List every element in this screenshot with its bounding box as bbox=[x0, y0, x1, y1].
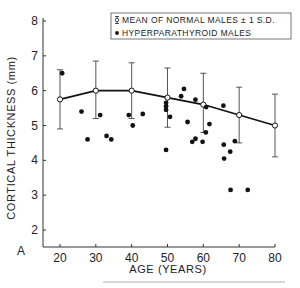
data-point bbox=[130, 123, 135, 128]
x-tick-label: 20 bbox=[53, 251, 67, 265]
data-point bbox=[98, 113, 103, 118]
x-tick-label: 80 bbox=[268, 251, 282, 265]
legend: MEAN OF NORMAL MALES ± 1 S.D. HYPERPARAT… bbox=[111, 13, 291, 39]
data-point bbox=[221, 103, 226, 108]
x-axis-title: AGE (YEARS) bbox=[129, 263, 207, 275]
data-point bbox=[245, 188, 250, 193]
data-point bbox=[204, 105, 209, 110]
y-tick-label: 7 bbox=[31, 49, 38, 63]
legend-label-hyper: HYPERPARATHYROID MALES bbox=[122, 28, 251, 38]
y-tick-label: 3 bbox=[31, 188, 38, 202]
data-point bbox=[228, 188, 233, 193]
y-tick-label: 2 bbox=[31, 223, 38, 237]
chart: 2345678 20304050607080 CORTICAL THICKNES… bbox=[0, 0, 300, 288]
axes bbox=[43, 18, 275, 247]
data-point bbox=[79, 109, 84, 114]
data-point bbox=[140, 112, 145, 117]
data-point bbox=[232, 139, 237, 144]
error-bar bbox=[57, 70, 63, 129]
error-bar bbox=[236, 87, 242, 143]
y-axis-ticks: 2345678 bbox=[31, 14, 46, 237]
data-point bbox=[200, 139, 205, 144]
data-point bbox=[179, 94, 184, 99]
data-point bbox=[60, 71, 65, 76]
data-point bbox=[168, 114, 173, 119]
panel-label: A bbox=[17, 244, 25, 258]
scatter-series bbox=[60, 71, 250, 192]
legend-dot-icon bbox=[115, 31, 119, 35]
data-point bbox=[221, 142, 226, 147]
data-point bbox=[85, 137, 90, 142]
mean-point bbox=[57, 97, 62, 102]
data-point bbox=[164, 107, 169, 112]
y-tick-label: 8 bbox=[31, 14, 38, 28]
mean-point bbox=[165, 95, 170, 100]
data-point bbox=[228, 149, 233, 154]
y-tick-label: 5 bbox=[31, 119, 38, 133]
mean-point bbox=[272, 123, 277, 128]
data-point bbox=[164, 147, 169, 152]
data-point bbox=[193, 136, 198, 141]
mean-point bbox=[129, 88, 134, 93]
y-axis-title: CORTICAL THICKNESS (mm) bbox=[5, 56, 17, 219]
data-point bbox=[126, 113, 131, 118]
data-point bbox=[185, 120, 190, 125]
x-tick-label: 30 bbox=[89, 251, 103, 265]
y-tick-label: 4 bbox=[31, 153, 38, 167]
data-point bbox=[109, 137, 114, 142]
data-point bbox=[207, 122, 212, 127]
error-bar bbox=[129, 63, 135, 119]
x-tick-label: 70 bbox=[232, 251, 246, 265]
error-bar bbox=[200, 73, 206, 132]
data-point bbox=[193, 97, 198, 102]
error-bar bbox=[272, 94, 278, 157]
data-point bbox=[104, 134, 109, 139]
y-tick-label: 6 bbox=[31, 84, 38, 98]
data-point bbox=[222, 156, 227, 161]
mean-point bbox=[237, 112, 242, 117]
mean-point bbox=[93, 88, 98, 93]
legend-label-mean: MEAN OF NORMAL MALES ± 1 S.D. bbox=[122, 15, 275, 25]
data-point bbox=[203, 130, 208, 135]
data-point bbox=[182, 87, 187, 92]
error-bar bbox=[93, 61, 99, 118]
